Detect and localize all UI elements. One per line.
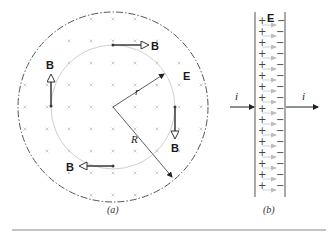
svg-text:−: − [277,15,285,26]
svg-text:−: − [276,158,284,169]
svg-text:+: + [258,15,266,26]
svg-text:B: B [151,40,159,52]
svg-text:+: + [258,180,266,191]
svg-text:i: i [235,90,238,102]
svg-text:−: − [276,180,284,191]
radius-R-arrow [113,107,172,177]
svg-text:−: − [276,92,284,103]
svg-text:−: − [276,37,284,48]
svg-text:+: + [258,158,266,169]
svg-text:−: − [276,70,284,81]
e-field-label-a: E [183,70,190,82]
svg-text:+: + [258,169,266,180]
svg-text:−: − [276,103,284,114]
svg-text:−: − [276,169,284,180]
b-vector-left: B [46,59,54,108]
svg-text:+: + [258,81,266,92]
svg-text:+: + [258,37,266,48]
svg-text:+: + [258,114,266,125]
svg-text:B: B [66,161,74,173]
svg-text:−: − [276,125,284,136]
svg-text:+: + [258,136,266,147]
svg-text:B: B [46,59,54,71]
svg-text:+: + [258,103,266,114]
radius-r-label: r [135,85,140,97]
caption-b: (b) [263,204,275,216]
caption-a: (a) [107,204,119,216]
svg-text:−: − [276,147,284,158]
capacitor-field-rows: +−+−+−+−+−+−+−+−+−+−+−+−+−+−+−+− [258,15,285,191]
current-out-arrow: i [286,90,318,107]
svg-text:+: + [258,92,266,103]
svg-text:−: − [276,81,284,92]
figure-canvas: r R E B B B B (a) + [0,0,331,232]
svg-text:+: + [258,70,266,81]
current-in-arrow: i [230,90,254,107]
svg-text:+: + [258,59,266,70]
e-field-label-b: E [267,12,274,24]
svg-text:−: − [276,48,284,59]
svg-text:−: − [276,114,284,125]
radius-R-label: R [130,133,138,145]
figure-b: +−+−+−+−+−+−+−+−+−+−+−+−+−+−+−+− E i i (… [230,12,318,216]
svg-text:B: B [171,142,179,154]
svg-text:−: − [276,26,284,37]
svg-text:+: + [258,125,266,136]
figure-a: r R E B B B B (a) [18,12,208,216]
svg-text:−: − [276,59,284,70]
b-vector-bottom: B [66,161,115,173]
svg-text:+: + [258,147,266,158]
svg-text:−: − [276,136,284,147]
svg-text:+: + [258,48,266,59]
b-vector-top: B [112,40,160,52]
svg-text:+: + [258,26,266,37]
svg-text:i: i [302,90,305,102]
